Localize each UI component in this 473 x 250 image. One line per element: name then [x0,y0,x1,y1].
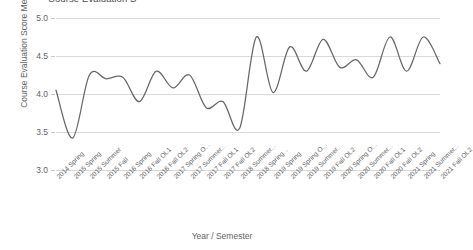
x-axis-title: Year / Semester [0,231,444,241]
